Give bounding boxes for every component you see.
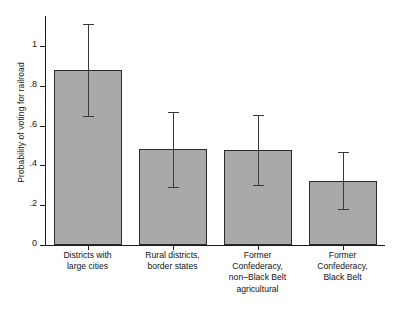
x-axis-category-label: Rural districts, border states	[130, 250, 215, 272]
y-axis-tick-label: .4	[29, 158, 37, 168]
x-axis-category-label: Districts with large cities	[45, 250, 130, 272]
error-bar-cap-lower	[83, 116, 94, 117]
error-bar-cap-upper	[168, 112, 179, 113]
error-bar-cap-upper	[83, 24, 94, 25]
x-axis-category-label: Former Confederacy, Black Belt	[300, 250, 385, 284]
error-bar-line	[343, 152, 344, 209]
error-bar-cap-lower	[168, 187, 179, 188]
y-axis-tick: .4	[40, 165, 45, 166]
bar-chart-figure: Probability of voting for railroad 0.2.4…	[0, 0, 400, 311]
y-axis-tick-label: .2	[29, 198, 37, 208]
y-axis-tick-label: 1	[32, 39, 37, 49]
y-axis-line	[45, 16, 46, 245]
plot-area: 0.2.4.6.81	[45, 16, 385, 245]
y-axis-tick: .8	[40, 86, 45, 87]
error-bar-line	[173, 112, 174, 188]
y-axis-tick: .6	[40, 126, 45, 127]
y-axis-title: Probability of voting for railroad	[14, 0, 28, 245]
y-axis-tick: 0	[40, 245, 45, 246]
error-bar-cap-lower	[253, 185, 264, 186]
error-bar-line	[258, 115, 259, 186]
error-bar-cap-upper	[338, 152, 349, 153]
x-axis-category-label: Former Confederacy, non–Black Belt agric…	[215, 250, 300, 295]
error-bar-cap-lower	[338, 209, 349, 210]
x-axis-line	[45, 245, 385, 246]
error-bar-line	[88, 24, 89, 116]
y-axis-tick-label: .6	[29, 119, 37, 129]
error-bar-cap-upper	[253, 115, 264, 116]
y-axis-tick-label: 0	[32, 238, 37, 248]
y-axis-tick: 1	[40, 46, 45, 47]
y-axis-tick: .2	[40, 205, 45, 206]
y-axis-tick-label: .8	[29, 79, 37, 89]
